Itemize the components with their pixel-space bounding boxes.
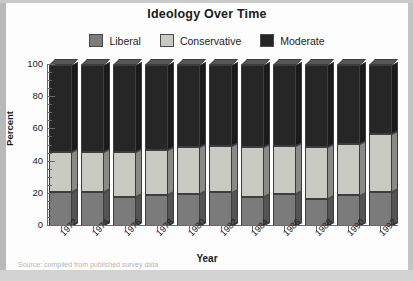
bar-1992 bbox=[369, 65, 392, 226]
bar-1980 bbox=[177, 65, 200, 226]
segment-face bbox=[241, 65, 264, 147]
segment-face bbox=[337, 65, 360, 144]
bar-segment-conservative bbox=[81, 152, 104, 192]
bar-1978 bbox=[145, 65, 168, 226]
y-tick-60 bbox=[48, 128, 55, 129]
segment-face bbox=[177, 147, 200, 194]
bar-segment-moderate bbox=[241, 65, 264, 147]
bar-segment-moderate bbox=[369, 65, 392, 134]
legend-item-conservative: Conservative bbox=[160, 34, 241, 47]
bar-1990 bbox=[337, 65, 360, 226]
segment-face bbox=[241, 147, 264, 197]
segment-side bbox=[328, 62, 334, 147]
legend-swatch-moderate bbox=[260, 34, 274, 47]
bar-series-group bbox=[47, 64, 398, 226]
bar-1972 bbox=[49, 65, 72, 226]
segment-side bbox=[328, 144, 334, 198]
bar-1974 bbox=[81, 65, 104, 226]
segment-side bbox=[296, 143, 302, 194]
segment-face bbox=[273, 65, 296, 146]
bar-segment-moderate bbox=[113, 65, 136, 152]
y-tick-35 bbox=[48, 169, 52, 170]
bar-1988 bbox=[305, 65, 328, 226]
bar-1984 bbox=[241, 65, 264, 226]
segment-side bbox=[104, 149, 110, 192]
y-tick-15 bbox=[48, 201, 52, 202]
legend-label: Moderate bbox=[280, 35, 324, 47]
segment-face bbox=[81, 65, 104, 152]
y-tick-40 bbox=[48, 161, 55, 162]
bar-1982 bbox=[209, 65, 232, 226]
legend-swatch-liberal bbox=[89, 34, 103, 47]
y-tick-5 bbox=[48, 217, 52, 218]
y-tick-55 bbox=[48, 136, 52, 137]
y-tick-20 bbox=[48, 193, 55, 194]
segment-face bbox=[305, 65, 328, 147]
segment-side bbox=[264, 62, 270, 147]
y-tick-25 bbox=[48, 185, 52, 186]
y-axis-label: 60 bbox=[13, 122, 43, 133]
chart-page: Ideology Over Time LiberalConservativeMo… bbox=[0, 0, 413, 281]
segment-face bbox=[209, 146, 232, 193]
segment-face bbox=[305, 147, 328, 199]
segment-side bbox=[296, 62, 302, 145]
bar-segment-conservative bbox=[145, 150, 168, 195]
segment-face bbox=[145, 65, 168, 150]
segment-face bbox=[209, 65, 232, 146]
bar-1976 bbox=[113, 65, 136, 226]
segment-side bbox=[72, 149, 78, 192]
segment-side bbox=[200, 144, 206, 194]
y-axis-label: 0 bbox=[13, 219, 43, 230]
y-tick-70 bbox=[48, 112, 52, 113]
y-tick-50 bbox=[48, 145, 52, 146]
page-edge-right bbox=[408, 0, 413, 281]
y-tick-85 bbox=[48, 88, 52, 89]
y-tick-0 bbox=[48, 225, 55, 226]
segment-side bbox=[168, 62, 174, 150]
segment-face bbox=[49, 152, 72, 192]
y-tick-100 bbox=[48, 64, 55, 65]
bar-segment-moderate bbox=[81, 65, 104, 152]
bar-1986 bbox=[273, 65, 296, 226]
y-axis-label: 20 bbox=[13, 187, 43, 198]
bar-segment-conservative bbox=[241, 147, 264, 197]
y-tick-95 bbox=[48, 72, 52, 73]
segment-face bbox=[177, 65, 200, 147]
segment-side bbox=[200, 62, 206, 147]
segment-side bbox=[136, 149, 142, 197]
bar-segment-moderate bbox=[49, 65, 72, 152]
segment-face bbox=[145, 150, 168, 195]
y-tick-10 bbox=[48, 209, 52, 210]
segment-face bbox=[369, 65, 392, 134]
y-axis-label: 80 bbox=[13, 90, 43, 101]
bar-segment-moderate bbox=[337, 65, 360, 144]
legend-item-liberal: Liberal bbox=[89, 34, 141, 47]
segment-face bbox=[113, 65, 136, 152]
bar-segment-conservative bbox=[209, 146, 232, 193]
bar-segment-conservative bbox=[305, 147, 328, 199]
page-edge-bottom bbox=[0, 270, 413, 281]
y-tick-80 bbox=[48, 96, 55, 97]
segment-side bbox=[168, 147, 174, 195]
segment-side bbox=[360, 62, 366, 144]
bar-segment-conservative bbox=[177, 147, 200, 194]
segment-side bbox=[392, 62, 398, 134]
y-axis-label: 40 bbox=[13, 155, 43, 166]
bar-segment-moderate bbox=[273, 65, 296, 146]
y-tick-90 bbox=[48, 80, 52, 81]
bar-segment-moderate bbox=[209, 65, 232, 146]
y-axis-labels: 020406080100 bbox=[9, 64, 43, 226]
segment-side bbox=[264, 144, 270, 197]
bar-segment-conservative bbox=[337, 144, 360, 196]
chart-title: Ideology Over Time bbox=[6, 7, 408, 21]
segment-side bbox=[392, 131, 398, 192]
segment-side bbox=[136, 62, 142, 152]
legend-item-moderate: Moderate bbox=[260, 34, 324, 47]
chart-sheet: Ideology Over Time LiberalConservativeMo… bbox=[6, 3, 408, 270]
bar-segment-moderate bbox=[177, 65, 200, 147]
chart-legend: LiberalConservativeModerate bbox=[6, 34, 408, 47]
y-tick-45 bbox=[48, 153, 52, 154]
segment-face bbox=[49, 65, 72, 152]
y-tick-75 bbox=[48, 104, 52, 105]
segment-face bbox=[337, 144, 360, 196]
